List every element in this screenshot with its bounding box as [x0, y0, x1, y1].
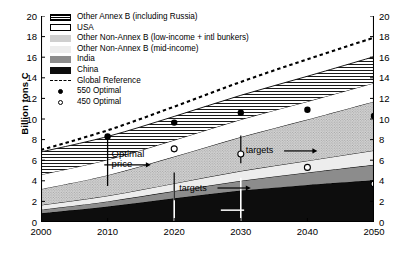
light-swatch-icon: [50, 46, 71, 53]
y-tick-label-right: 6: [379, 156, 401, 165]
legend-item: China: [50, 65, 249, 76]
y-tick-label: 6: [15, 156, 37, 165]
filled-circle-icon: [50, 88, 71, 95]
legend-label: USA: [77, 23, 94, 34]
hlines-swatch-icon: [50, 14, 71, 21]
x-tick-label: 2020: [154, 227, 194, 236]
x-tick-label: 2040: [287, 227, 327, 236]
chart-figure: Billion tons C 02468101214161820 0246810…: [0, 0, 409, 262]
y-tick-label-right: 18: [379, 32, 401, 41]
legend-item: USA: [50, 23, 249, 34]
legend-label: Other Annex B (including Russia): [77, 12, 198, 23]
marker-550-optimal: [104, 133, 110, 139]
annotation-label: targets: [246, 145, 274, 155]
y-tick-label-right: 2: [379, 197, 401, 206]
marker-550-optimal: [238, 110, 244, 116]
marker-550-optimal: [171, 119, 177, 125]
marker-550-optimal: [304, 107, 310, 113]
y-tick-label: 8: [15, 135, 37, 144]
gray-swatch-icon: [50, 56, 71, 63]
open-circle-icon: [50, 99, 71, 106]
legend-item: Other Non-Annex B (low-income + intl bun…: [50, 33, 249, 44]
marker-450-optimal: [304, 164, 310, 170]
dashed-line-icon: [50, 77, 71, 84]
black-swatch-icon: [50, 67, 71, 74]
marker-450-optimal: [238, 151, 244, 157]
white-swatch-icon: [50, 24, 71, 31]
marker-450-optimal: [171, 146, 177, 152]
y-tick-label: 14: [15, 73, 37, 82]
y-tick-label-right: 20: [379, 12, 401, 21]
y-tick-label: 18: [15, 32, 37, 41]
y-tick-label-right: 16: [379, 53, 401, 62]
legend-item: Other Annex B (including Russia): [50, 12, 249, 23]
y-tick-label: 12: [15, 94, 37, 103]
legend-label: China: [77, 65, 98, 76]
y-tick-label: 10: [15, 115, 37, 124]
legend-label: Other Non-Annex B (low-income + intl bun…: [77, 33, 249, 44]
y-tick-label: 2: [15, 197, 37, 206]
annotation-label: Optimal price: [112, 149, 150, 169]
legend-label: India: [77, 54, 95, 65]
y-tick-label: 20: [15, 12, 37, 21]
legend-item: 450 Optimal: [50, 97, 249, 108]
y-tick-label: 16: [15, 53, 37, 62]
x-tick-label: 2050: [354, 227, 394, 236]
y-tick-label-right: 4: [379, 176, 401, 185]
legend-item: India: [50, 54, 249, 65]
legend-label: Other Non-Annex B (mid-income): [77, 44, 199, 55]
legend-label: 450 Optimal: [77, 97, 121, 108]
legend-label: Global Reference: [77, 76, 141, 87]
y-tick-label-right: 10: [379, 115, 401, 124]
x-tick-label: 2000: [21, 227, 61, 236]
y-tick-label: 4: [15, 176, 37, 185]
legend-item: 550 Optimal: [50, 86, 249, 97]
legend-label: 550 Optimal: [77, 86, 121, 97]
annotation-label: targets: [179, 183, 207, 193]
y-tick-label-right: 8: [379, 135, 401, 144]
y-tick-label-right: 14: [379, 73, 401, 82]
stipple-swatch-icon: [50, 35, 71, 42]
y-tick-label-right: 12: [379, 94, 401, 103]
legend-item: Global Reference: [50, 76, 249, 87]
x-tick-label: 2030: [221, 227, 261, 236]
chart-legend: Other Annex B (including Russia)USAOther…: [50, 12, 249, 107]
legend-item: Other Non-Annex B (mid-income): [50, 44, 249, 55]
x-tick-label: 2010: [88, 227, 128, 236]
